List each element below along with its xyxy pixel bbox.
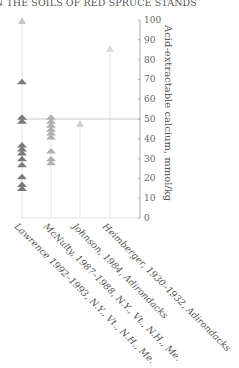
offscale-marker (18, 17, 26, 24)
data-marker (46, 148, 56, 154)
y-tick-label: 30 (144, 154, 156, 164)
data-marker (17, 79, 27, 85)
category-labels: Lawrence 1992–1993, N.Y., Vt., N.H., Me.… (12, 219, 234, 365)
y-tick-label: 40 (144, 134, 156, 144)
y-tick-label: 70 (144, 74, 156, 84)
y-axis: 0102030405060708090100 (138, 15, 161, 223)
y-tick-label: 20 (144, 173, 156, 183)
data-marker (17, 156, 27, 162)
data-marker (17, 174, 27, 180)
y-tick-label: 0 (144, 213, 150, 223)
data-marker (106, 45, 114, 52)
y-tick-label: 80 (144, 55, 156, 65)
data-marker (17, 162, 27, 168)
y-tick-label: 60 (144, 94, 156, 104)
y-tick-label: 90 (144, 35, 156, 45)
y-tick-label: 50 (144, 114, 156, 124)
data-marker (76, 120, 84, 127)
data-markers (17, 17, 114, 191)
y-tick-label: 10 (144, 193, 156, 203)
y-tick-label: 100 (144, 15, 161, 25)
calcium-chart: 0102030405060708090100 Lawrence 1992–199… (0, 0, 239, 368)
category-label: McNulty, 1987–1988, N.Y., Vt., N.H., Me. (41, 220, 184, 363)
y-axis-title: Acid-extractable calcium, mmol/kg (163, 24, 174, 202)
